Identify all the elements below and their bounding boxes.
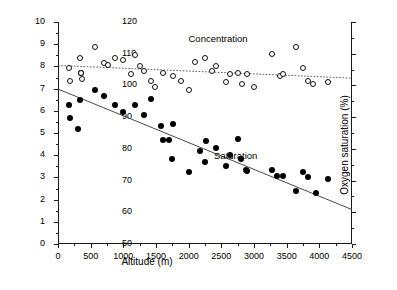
data-point-saturation <box>169 156 175 162</box>
x-tick <box>238 244 239 246</box>
y-left-tick-label: 3 <box>40 172 45 181</box>
data-point-concentration <box>67 78 73 84</box>
x-tick <box>303 244 304 246</box>
y-right-tick <box>352 181 356 182</box>
data-point-saturation <box>66 102 72 108</box>
data-point-concentration <box>269 51 275 57</box>
data-point-concentration <box>300 65 306 71</box>
data-point-concentration <box>160 70 166 76</box>
plot-area: 012345678910 5060708090100110120 0500100… <box>58 22 352 244</box>
y-right-tick <box>352 165 354 166</box>
data-point-concentration <box>77 55 83 61</box>
data-point-concentration <box>239 81 245 87</box>
x-tick <box>205 244 206 246</box>
y-left-tick-label: 9 <box>40 39 45 48</box>
x-tick <box>156 244 157 248</box>
x-tick <box>319 244 320 248</box>
data-point-saturation <box>67 115 73 121</box>
y-left-tick-label: 5 <box>40 128 45 137</box>
data-point-concentration <box>227 71 233 77</box>
y-right-tick <box>352 133 354 134</box>
x-tick <box>91 244 92 248</box>
data-point-saturation <box>293 188 299 194</box>
data-point-saturation <box>170 121 176 127</box>
x-tick <box>336 244 337 246</box>
data-point-concentration <box>244 71 250 77</box>
data-point-saturation <box>305 174 311 180</box>
data-point-saturation <box>112 102 118 108</box>
data-point-concentration <box>293 44 299 50</box>
data-point-concentration <box>280 71 286 77</box>
y-left-tick-label: 8 <box>40 61 45 70</box>
y-left-tick-label: 1 <box>40 217 45 226</box>
data-point-concentration <box>105 62 111 68</box>
data-point-concentration <box>79 76 85 82</box>
data-point-concentration <box>132 52 138 58</box>
x-tick-label: 4500 <box>332 252 372 261</box>
y-right-tick <box>352 70 354 71</box>
y-right-tick <box>352 196 354 197</box>
x-tick <box>287 244 288 248</box>
y-left-tick-label: 6 <box>40 106 45 115</box>
data-point-concentration <box>152 84 158 90</box>
y-left-tick-label: 7 <box>40 84 45 93</box>
y-right-tick <box>352 101 354 102</box>
y-right-tick <box>352 85 356 86</box>
data-point-saturation <box>148 96 154 102</box>
data-point-concentration <box>120 57 126 63</box>
data-point-saturation <box>166 137 172 143</box>
data-point-saturation <box>269 167 275 173</box>
data-points-layer <box>58 22 352 244</box>
data-point-concentration <box>213 63 219 69</box>
data-point-concentration <box>78 70 84 76</box>
annotation-concentration: Concentration <box>188 33 247 44</box>
x-tick <box>172 244 173 246</box>
data-point-concentration <box>148 78 154 84</box>
y-left-tick-label: 2 <box>40 195 45 204</box>
x-tick <box>221 244 222 248</box>
data-point-concentration <box>223 79 229 85</box>
data-point-saturation <box>244 168 250 174</box>
oxygen-altitude-figure: Oxygen concentration (mg L-1) Oxygen sat… <box>0 0 397 290</box>
data-point-concentration <box>310 81 316 87</box>
x-tick <box>74 244 75 246</box>
data-point-saturation <box>158 123 164 129</box>
data-point-concentration <box>170 73 176 79</box>
y-right-tick <box>352 212 356 213</box>
x-tick <box>270 244 271 246</box>
data-point-concentration <box>128 71 134 77</box>
annotation-saturation: Saturation <box>214 150 257 161</box>
data-point-saturation <box>280 173 286 179</box>
data-point-saturation <box>132 102 138 108</box>
data-point-saturation <box>197 148 203 154</box>
data-point-concentration <box>141 68 147 74</box>
x-tick <box>140 244 141 246</box>
y-right-tick <box>352 149 356 150</box>
data-point-concentration <box>325 79 331 85</box>
data-point-saturation <box>202 159 208 165</box>
data-point-saturation <box>203 138 209 144</box>
data-point-concentration <box>186 87 192 93</box>
x-tick <box>189 244 190 248</box>
data-point-saturation <box>77 97 83 103</box>
data-point-saturation <box>92 87 98 93</box>
y-right-tick <box>352 228 354 229</box>
y-left-tick-label: 0 <box>40 239 45 248</box>
data-point-concentration <box>192 59 198 65</box>
data-point-saturation <box>120 109 126 115</box>
data-point-saturation <box>75 126 81 132</box>
x-tick <box>254 244 255 248</box>
x-tick <box>58 244 59 248</box>
data-point-saturation <box>313 190 319 196</box>
data-point-concentration <box>251 84 257 90</box>
data-point-saturation <box>274 173 280 179</box>
y-right-tick <box>352 54 356 55</box>
data-point-concentration <box>66 65 72 71</box>
y-left-tick-label: 10 <box>35 17 45 26</box>
data-point-saturation <box>223 163 229 169</box>
data-point-concentration <box>178 78 184 84</box>
data-point-concentration <box>202 55 208 61</box>
data-point-saturation <box>101 93 107 99</box>
data-point-saturation <box>141 112 147 118</box>
data-point-saturation <box>186 169 192 175</box>
